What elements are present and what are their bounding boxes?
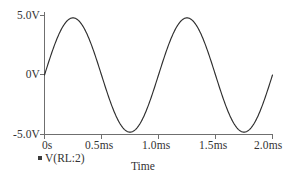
y-axis-label-5v: 5.0V: [6, 10, 40, 22]
legend-label: V(RL:2): [45, 152, 85, 164]
x-axis-label-1_0ms: 1.0ms: [142, 140, 170, 152]
voltage-trace-vrl2: [45, 18, 273, 132]
legend-swatch-icon: [38, 156, 42, 160]
legend-trace-vrl2[interactable]: V(RL:2): [38, 152, 85, 164]
x-axis-label-2_0ms: 2.0ms: [254, 140, 282, 152]
waveform-plot: 5.0V 0V -5.0V 0s 0.5ms 1.0ms 1.5ms 2.0ms…: [0, 0, 289, 178]
y-axis-label-neg5v: -5.0V: [2, 129, 40, 141]
x-axis-label-1_5ms: 1.5ms: [199, 140, 227, 152]
x-axis-label-0_5ms: 0.5ms: [85, 140, 113, 152]
y-axis-label-0v: 0V: [6, 69, 40, 81]
x-axis-label-0s: 0s: [42, 140, 52, 152]
x-axis-title: Time: [131, 160, 155, 172]
